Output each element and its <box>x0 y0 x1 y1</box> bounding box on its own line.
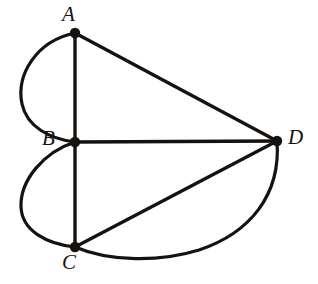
edge-bc-curved <box>21 142 75 247</box>
vertex-dot-a <box>70 28 80 38</box>
edge-cd-straight <box>75 141 277 247</box>
vertex-label-d: D <box>288 127 303 148</box>
edge-bd-straight <box>75 141 277 142</box>
vertex-dot-b <box>70 137 80 147</box>
vertex-label-a: A <box>62 4 75 25</box>
vertex-label-b: B <box>42 128 55 149</box>
graph-figure: A B C D <box>0 0 318 284</box>
edge-ad-straight <box>75 33 277 141</box>
vertex-dot-d <box>272 136 282 146</box>
vertex-label-c: C <box>62 252 76 273</box>
